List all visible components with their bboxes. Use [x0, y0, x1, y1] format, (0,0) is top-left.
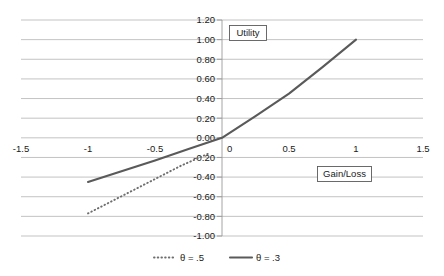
chart-legend: θ = .5θ = .3	[154, 252, 280, 263]
x-tick-label: -0.5	[147, 143, 163, 154]
x-tick-label: 1	[353, 143, 358, 154]
y-tick-label: 0.80	[197, 54, 216, 65]
x-tick-label: 1.5	[416, 143, 429, 154]
legend-item-label: θ = .5	[180, 252, 204, 263]
utility-function-chart: 1.201.000.800.600.400.200.00-0.20-0.40-0…	[0, 0, 444, 276]
x-axis-title-box: Gain/Loss	[318, 167, 372, 182]
x-tick-label: 0	[227, 143, 232, 154]
y-axis-title-label: Utility	[236, 27, 259, 38]
y-tick-label: -0.40	[193, 171, 215, 182]
x-axis-tick-labels: -1.5-1-0.500.511.5	[13, 143, 430, 154]
y-tick-label: 0.60	[197, 73, 216, 84]
x-tick-label: -1	[84, 143, 92, 154]
y-tick-label: 1.20	[197, 14, 216, 25]
legend-item-label: θ = .3	[256, 252, 280, 263]
y-tick-label: 0.20	[197, 113, 216, 124]
x-axis-title-label: Gain/Loss	[323, 168, 366, 179]
x-tick-label: 0.5	[282, 143, 295, 154]
y-tick-label: -0.60	[193, 191, 215, 202]
y-tick-label: -0.20	[193, 152, 215, 163]
chart-canvas: 1.201.000.800.600.400.200.00-0.20-0.40-0…	[0, 0, 444, 276]
y-tick-label: -0.80	[193, 211, 215, 222]
x-tick-label: -1.5	[13, 143, 29, 154]
y-tick-label: 0.40	[197, 93, 216, 104]
y-tick-label: -1.00	[193, 230, 215, 241]
y-axis-title-box: Utility	[230, 26, 267, 41]
y-axis-tick-labels: 1.201.000.800.600.400.200.00-0.20-0.40-0…	[193, 14, 222, 241]
y-tick-label: 1.00	[197, 34, 216, 45]
